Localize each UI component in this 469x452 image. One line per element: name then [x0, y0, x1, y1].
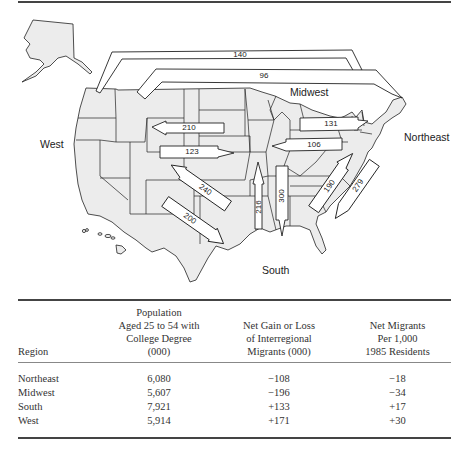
svg-text:300: 300	[277, 189, 286, 203]
cell-region: Midwest	[18, 386, 104, 400]
header-region: Region	[18, 300, 104, 363]
region-label-south: South	[262, 264, 290, 276]
us-migration-map: 140 96 210 123 240 200 216 300	[0, 0, 469, 290]
flow-arrow-210: 210	[152, 121, 224, 135]
cell-region: Northeast	[18, 363, 104, 387]
alaska	[22, 20, 92, 82]
cell-region: South	[18, 400, 104, 414]
migration-table: Region Population Aged 25 to 54 with Col…	[18, 300, 451, 428]
region-label-northeast: Northeast	[404, 131, 450, 143]
svg-text:106: 106	[307, 140, 321, 149]
cell-net-gain: −196	[214, 386, 344, 400]
cell-net-gain: −108	[214, 363, 344, 387]
svg-text:131: 131	[324, 119, 338, 128]
svg-text:210: 210	[182, 123, 196, 132]
region-label-midwest: Midwest	[290, 86, 329, 98]
flow-arrow-131: 131	[300, 117, 368, 131]
table-header-row: Region Population Aged 25 to 54 with Col…	[18, 300, 451, 363]
header-per-1000: Net Migrants Per 1,000 1985 Residents	[344, 300, 451, 363]
table-row: Northeast 6,080 −108 −18	[18, 363, 451, 387]
svg-text:140: 140	[233, 50, 247, 59]
svg-text:123: 123	[185, 147, 199, 156]
region-label-west: West	[40, 138, 64, 150]
svg-text:96: 96	[260, 71, 269, 80]
cell-region: West	[18, 414, 104, 428]
cell-per-1000: +30	[344, 414, 451, 428]
cell-population: 5,607	[104, 386, 214, 400]
cell-population: 5,914	[104, 414, 214, 428]
cell-net-gain: +171	[214, 414, 344, 428]
table-row: West 5,914 +171 +30	[18, 414, 451, 428]
cell-population: 6,080	[104, 363, 214, 387]
cell-per-1000: −34	[344, 386, 451, 400]
cell-net-gain: +133	[214, 400, 344, 414]
svg-text:216: 216	[254, 200, 263, 214]
header-net-gain: Net Gain or Loss of Interregional Migran…	[214, 300, 344, 363]
cell-population: 7,921	[104, 400, 214, 414]
hawaii	[82, 229, 126, 254]
table-row: Midwest 5,607 −196 −34	[18, 386, 451, 400]
cell-per-1000: +17	[344, 400, 451, 414]
table-bottom-rule	[18, 437, 451, 439]
table-row: South 7,921 +133 +17	[18, 400, 451, 414]
header-population: Population Aged 25 to 54 with College De…	[104, 300, 214, 363]
cell-per-1000: −18	[344, 363, 451, 387]
